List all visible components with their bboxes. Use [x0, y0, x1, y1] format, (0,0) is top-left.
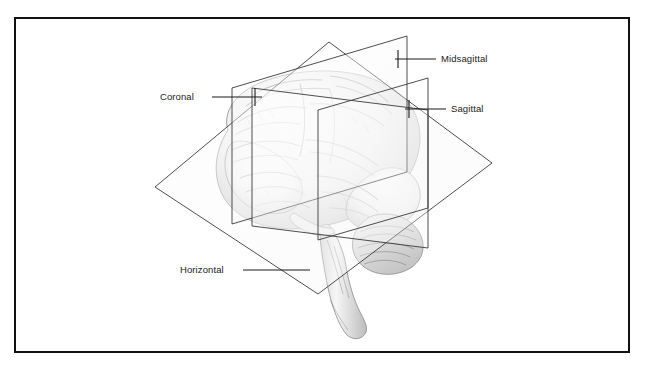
figure-root: Midsagittal Sagittal Coronal Horizontal — [0, 0, 645, 371]
label-horizontal: Horizontal — [180, 265, 224, 275]
label-coronal: Coronal — [160, 92, 194, 102]
plane-coronal — [252, 88, 428, 248]
plane-coronal-face — [252, 88, 428, 248]
label-midsagittal: Midsagittal — [441, 54, 488, 64]
brain-planes-diagram — [0, 0, 645, 371]
label-sagittal: Sagittal — [451, 104, 484, 114]
